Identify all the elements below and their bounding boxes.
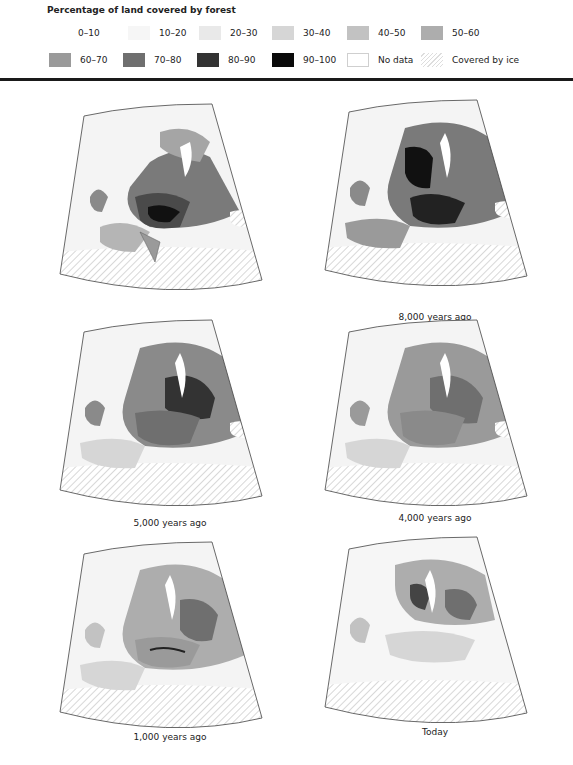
map-caption: 1,000 years ago <box>40 732 300 742</box>
legend-label: No data <box>378 55 413 65</box>
legend-swatch <box>347 26 369 40</box>
legend-swatch <box>421 26 443 40</box>
europe-forest-map <box>305 318 565 528</box>
legend-swatch <box>272 26 294 40</box>
legend-item-40-50: 40–50 <box>347 25 405 41</box>
legend-swatch <box>49 53 71 67</box>
legend-item-80-90: 80–90 <box>197 52 255 68</box>
legend-label: 10–20 <box>159 28 186 38</box>
map-panel-8000: 8,000 years ago <box>305 98 565 318</box>
map-panel-5000: 5,000 years ago <box>40 318 300 538</box>
legend-swatch <box>128 26 150 40</box>
legend-item-covered-by-ice: Covered by ice <box>421 52 519 68</box>
legend-label: 80–90 <box>228 55 255 65</box>
map-caption: 4,000 years ago <box>305 513 565 523</box>
legend-swatch <box>347 53 369 67</box>
legend-label: 70–80 <box>154 55 181 65</box>
europe-forest-map <box>305 98 565 308</box>
legend-item-70-80: 70–80 <box>123 52 181 68</box>
map-caption: Today <box>305 727 565 737</box>
map-panel-4000: 4,000 years ago <box>305 318 565 538</box>
legend-label: 40–50 <box>378 28 405 38</box>
legend-item-50-60: 50–60 <box>421 25 479 41</box>
legend-item-60-70: 60–70 <box>49 52 107 68</box>
europe-forest-map <box>40 540 300 750</box>
legend-swatch <box>123 53 145 67</box>
legend-swatch <box>47 26 69 40</box>
legend-label: 20–30 <box>230 28 257 38</box>
europe-forest-map <box>40 102 300 312</box>
legend-item-90-100: 90–100 <box>272 52 336 68</box>
map-panel-today: Today <box>305 535 565 755</box>
legend-label: 30–40 <box>303 28 330 38</box>
map-caption: 5,000 years ago <box>40 518 300 528</box>
legend-item-no-data: No data <box>347 52 413 68</box>
legend-item-20-30: 20–30 <box>199 25 257 41</box>
legend-label: 0–10 <box>78 28 100 38</box>
legend-label: 50–60 <box>452 28 479 38</box>
divider-rule <box>0 78 573 81</box>
legend-item-10-20: 10–20 <box>128 25 186 41</box>
legend-label: 90–100 <box>303 55 336 65</box>
legend-swatch <box>199 26 221 40</box>
europe-forest-map <box>305 535 565 745</box>
legend-title: Percentage of land covered by forest <box>47 5 236 15</box>
legend-label: 60–70 <box>80 55 107 65</box>
legend-swatch <box>197 53 219 67</box>
legend-swatch <box>272 53 294 67</box>
europe-forest-map <box>40 318 300 528</box>
legend-item-0-10: 0–10 <box>47 25 100 41</box>
map-panel-9000: 9,000 years ago <box>40 102 300 322</box>
legend-swatch-hatched <box>421 53 443 67</box>
map-panel-1000: 1,000 years ago <box>40 540 300 760</box>
legend-item-30-40: 30–40 <box>272 25 330 41</box>
legend-label: Covered by ice <box>452 55 519 65</box>
